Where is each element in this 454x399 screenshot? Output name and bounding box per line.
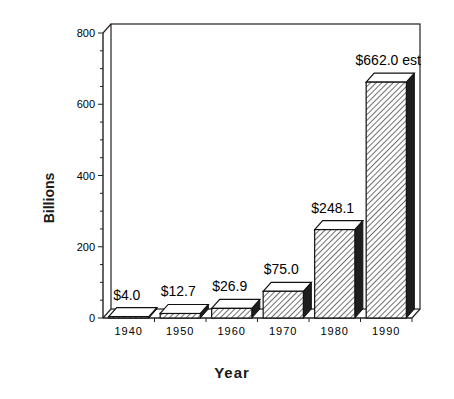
bar-chart: 0200400600800194019501960197019801990 $4… <box>0 0 454 399</box>
y-tick-label: 800 <box>77 27 95 39</box>
y-tick-label: 600 <box>77 98 95 110</box>
y-tick-label: 400 <box>77 170 95 182</box>
data-label: $12.7 <box>161 283 196 299</box>
bar-1960: $26.9 <box>212 278 260 318</box>
bar-1990: $662.0 est <box>356 52 421 318</box>
data-label: $248.1 <box>311 200 354 216</box>
y-tick-label: 0 <box>89 312 95 324</box>
bar-1980: $248.1 <box>311 200 362 318</box>
data-label: $75.0 <box>264 261 299 277</box>
bar-1970: $75.0 <box>263 261 311 318</box>
data-label: $26.9 <box>212 278 247 294</box>
x-tick-label: 1940 <box>115 325 143 337</box>
bar-1940: $4.0 <box>109 287 157 318</box>
x-tick-label: 1980 <box>321 325 349 337</box>
x-tick-label: 1990 <box>372 325 400 337</box>
bar-1950: $12.7 <box>160 283 208 318</box>
x-tick-label: 1950 <box>166 325 194 337</box>
x-tick-label: 1970 <box>269 325 297 337</box>
data-label: $662.0 est <box>356 52 421 68</box>
y-tick-label: 200 <box>77 241 95 253</box>
data-label: $4.0 <box>113 287 140 303</box>
x-tick-label: 1960 <box>218 325 246 337</box>
